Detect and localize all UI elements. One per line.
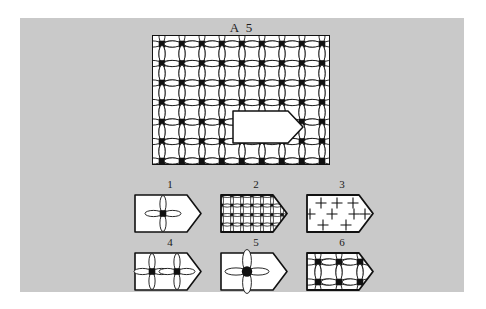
option-5-shape [213,249,299,294]
option-1-number: 1 [127,178,213,190]
option-2[interactable]: 2 [213,178,299,236]
option-4[interactable]: 4 [127,236,213,294]
main-pattern-rectangle [152,35,330,165]
option-4-number: 4 [127,236,213,248]
option-3[interactable]: 3 [299,178,385,236]
option-2-number: 2 [213,178,299,190]
option-6-number: 6 [299,236,385,248]
option-3-number: 3 [299,178,385,190]
main-pattern-svg [153,36,330,165]
option-5[interactable]: 5 [213,236,299,294]
option-3-shape [299,191,385,236]
option-2-shape [213,191,299,236]
option-1[interactable]: 1 [127,178,213,236]
puzzle-panel: A 5 [20,18,464,292]
page-title: A 5 [20,20,464,36]
option-5-number: 5 [213,236,299,248]
option-1-shape [127,191,213,236]
option-6[interactable]: 6 [299,236,385,294]
option-6-shape [299,249,385,294]
option-4-shape [127,249,213,294]
cutout-pentagon [233,111,303,143]
